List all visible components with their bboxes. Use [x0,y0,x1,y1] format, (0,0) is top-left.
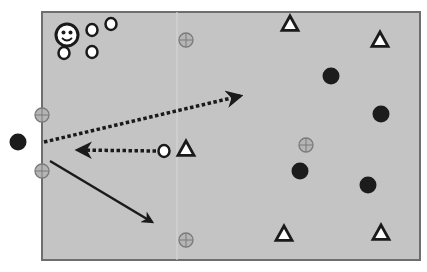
drill-diagram [0,0,427,272]
cone-marker-icon [179,33,193,47]
white-player-icon [159,145,170,157]
playing-field [42,12,420,260]
white-player-icon [106,18,117,30]
cone-marker-icon [35,108,49,122]
black-player-icon [360,177,377,194]
white-player-icon [87,24,98,36]
cone-marker-icon [35,164,49,178]
white-player-icon [59,47,70,59]
black-player-icon [323,68,340,85]
coach-smiley-icon [56,24,78,46]
black-player-icon [373,106,390,123]
white-player-icon [87,46,98,58]
cone-marker-icon [299,138,313,152]
black-player-icon [292,163,309,180]
black-player-icon [10,134,27,151]
cone-marker-icon [179,233,193,247]
